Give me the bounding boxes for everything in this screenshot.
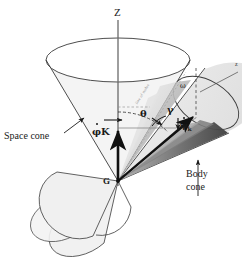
z-small-axis-label: z	[235, 61, 238, 67]
body-cone-label-line2: cone	[186, 181, 205, 192]
space-cone-leader	[64, 118, 84, 133]
phi-symbol: φ	[92, 126, 101, 137]
psi-symbol: ψ	[180, 120, 188, 130]
omega-label: ω	[180, 82, 186, 90]
gamma-label: γ	[167, 104, 174, 115]
space-cone-label: Space cone	[4, 130, 49, 141]
psi-dot-label: ψk	[180, 120, 192, 132]
K-symbol: K	[101, 126, 110, 137]
diagram-canvas: Z z Space cone Body cone G φK θ γ ω ψk l…	[0, 0, 242, 259]
opposite-nappe-group	[30, 172, 131, 257]
body-cone-label-line1: Body	[186, 168, 208, 179]
z-axis-label: Z	[114, 6, 121, 18]
apex-point-label: G	[103, 176, 110, 186]
psi-subscript: k	[188, 125, 192, 132]
theta-label: θ	[140, 108, 147, 119]
apex-dot	[116, 179, 120, 183]
phi-dot-K-label: φK	[92, 126, 110, 137]
